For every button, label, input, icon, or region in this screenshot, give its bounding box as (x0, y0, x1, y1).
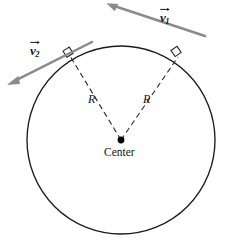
diagram-canvas (0, 0, 237, 249)
radius-line-left (70, 56, 121, 140)
velocity-1-label: v 1 (160, 11, 170, 26)
velocity-1-symbol: v (160, 10, 166, 25)
velocity-2-symbol: v (30, 43, 36, 58)
center-label: Center (104, 147, 135, 159)
radius-label-left: R (88, 93, 95, 105)
center-dot (118, 137, 125, 144)
velocity-vector-1 (107, 4, 205, 36)
velocity-2-label: v 2 (30, 44, 40, 59)
radius-label-right: R (143, 93, 150, 105)
right-angle-marker-right (171, 46, 181, 56)
physics-circle-diagram: v 1 v 2 R R Center (0, 0, 237, 249)
